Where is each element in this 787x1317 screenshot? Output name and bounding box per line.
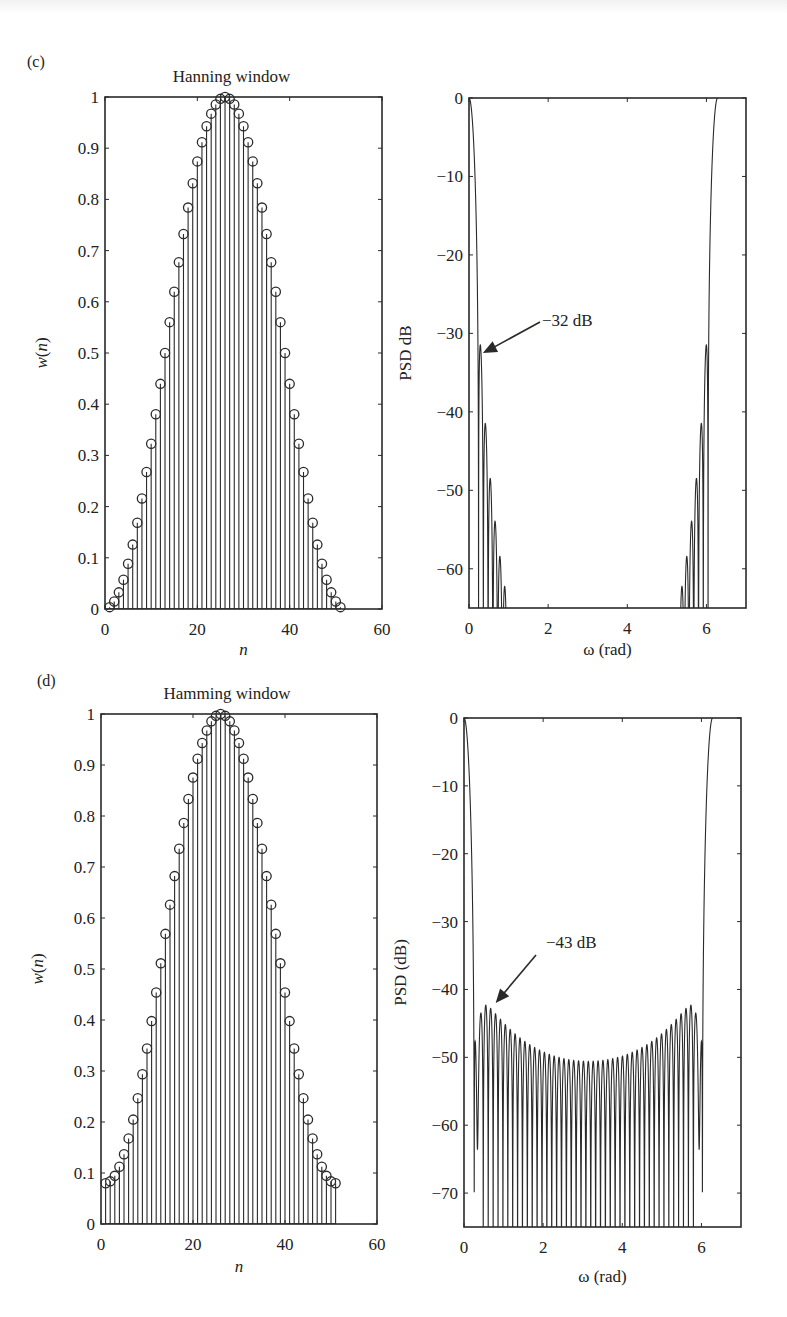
svg-text:Hanning window: Hanning window: [173, 67, 291, 86]
svg-text:0.8: 0.8: [74, 807, 95, 826]
svg-text:0: 0: [455, 89, 464, 108]
hamming-psd-plot: 02460−10−20−30−40−50−60−70ω (rad)PSD (dB…: [391, 709, 741, 1286]
svg-text:2: 2: [539, 1238, 548, 1257]
svg-text:0.9: 0.9: [74, 756, 95, 775]
svg-text:0: 0: [465, 619, 474, 638]
svg-text:−20: −20: [431, 845, 458, 864]
svg-text:0: 0: [97, 1235, 106, 1254]
svg-text:−70: −70: [431, 1184, 458, 1203]
svg-text:0.7: 0.7: [78, 242, 100, 261]
svg-text:−30: −30: [431, 913, 458, 932]
svg-text:40: 40: [281, 620, 298, 639]
svg-text:n: n: [239, 640, 248, 659]
svg-text:n: n: [235, 1257, 244, 1276]
figure-canvas: 020406000.10.20.30.40.50.60.70.80.91Hann…: [0, 0, 787, 1317]
svg-text:−32 dB: −32 dB: [542, 311, 593, 330]
svg-text:−10: −10: [436, 167, 463, 186]
svg-text:−20: −20: [436, 246, 463, 265]
svg-text:2: 2: [544, 619, 553, 638]
svg-text:1: 1: [87, 705, 96, 724]
svg-text:60: 60: [374, 620, 391, 639]
svg-text:1: 1: [91, 88, 100, 107]
svg-text:0.8: 0.8: [78, 190, 99, 209]
svg-text:−43 dB: −43 dB: [546, 933, 597, 952]
svg-text:0.3: 0.3: [78, 446, 99, 465]
hanning-window-stem-plot: 020406000.10.20.30.40.50.60.70.80.91Hann…: [32, 67, 391, 659]
svg-text:0.4: 0.4: [78, 395, 100, 414]
hamming-window-stem-plot: 020406000.10.20.30.40.50.60.70.80.91Hamm…: [28, 684, 386, 1276]
svg-text:−40: −40: [431, 980, 458, 999]
svg-text:6: 6: [697, 1238, 706, 1257]
svg-text:0.5: 0.5: [78, 344, 99, 363]
svg-text:−50: −50: [436, 481, 463, 500]
svg-text:Hamming window: Hamming window: [163, 684, 291, 703]
svg-text:4: 4: [618, 1238, 627, 1257]
svg-text:0.4: 0.4: [74, 1011, 96, 1030]
svg-text:40: 40: [277, 1235, 294, 1254]
svg-text:−50: −50: [431, 1048, 458, 1067]
svg-text:0.6: 0.6: [74, 909, 95, 928]
svg-text:0.2: 0.2: [74, 1113, 95, 1132]
svg-text:0.2: 0.2: [78, 498, 99, 517]
svg-text:−10: −10: [431, 777, 458, 796]
svg-text:w(n): w(n): [28, 953, 47, 984]
svg-text:0.1: 0.1: [78, 549, 99, 568]
svg-text:6: 6: [702, 619, 711, 638]
svg-text:0: 0: [91, 600, 100, 619]
svg-text:−30: −30: [436, 324, 463, 343]
svg-text:20: 20: [189, 620, 206, 639]
svg-text:0.1: 0.1: [74, 1164, 95, 1183]
svg-text:0.9: 0.9: [78, 139, 99, 158]
svg-text:0: 0: [450, 709, 459, 728]
svg-text:20: 20: [185, 1235, 202, 1254]
svg-text:ω (rad): ω (rad): [583, 640, 631, 659]
svg-text:4: 4: [623, 619, 632, 638]
svg-text:60: 60: [369, 1235, 386, 1254]
svg-text:0.6: 0.6: [78, 293, 99, 312]
svg-text:−60: −60: [431, 1116, 458, 1135]
svg-text:−40: −40: [436, 403, 463, 422]
svg-text:−60: −60: [436, 560, 463, 579]
svg-text:0.3: 0.3: [74, 1062, 95, 1081]
svg-text:0: 0: [460, 1238, 469, 1257]
svg-text:PSD (dB): PSD (dB): [391, 939, 410, 1006]
hanning-psd-plot: 02460−10−20−30−40−50−60ω (rad)PSD dB−32 …: [396, 89, 746, 659]
svg-text:0.5: 0.5: [74, 960, 95, 979]
svg-text:0: 0: [87, 1215, 96, 1234]
svg-text:0: 0: [101, 620, 110, 639]
svg-text:PSD dB: PSD dB: [396, 325, 415, 380]
svg-text:ω (rad): ω (rad): [578, 1267, 626, 1286]
svg-text:w(n): w(n): [32, 337, 51, 368]
svg-text:0.7: 0.7: [74, 858, 96, 877]
